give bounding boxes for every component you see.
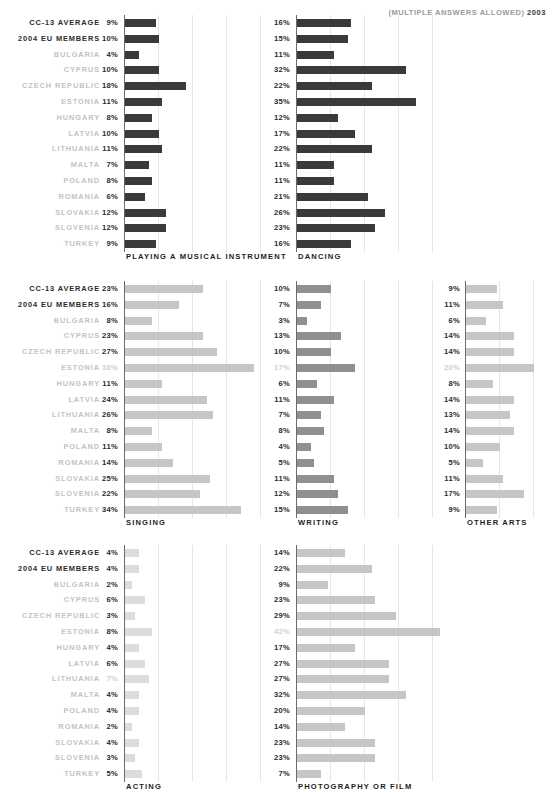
- chart-bar: [297, 98, 416, 106]
- chart-bar: [125, 459, 173, 467]
- chart-row: SLOVAKIA25%11%11%: [0, 471, 552, 487]
- chart-row: 2004 EU MEMBERS4%22%: [0, 561, 552, 577]
- value-label: 10%: [232, 344, 290, 360]
- value-label: 10%: [404, 439, 460, 455]
- chart-bar: [297, 193, 368, 201]
- chart-row: CZECH REPUBLIC27%10%14%: [0, 344, 552, 360]
- value-label: 8%: [404, 376, 460, 392]
- value-label: 8%: [60, 313, 118, 329]
- chart-row: BULGARIA8%3%6%: [0, 313, 552, 329]
- panel-title: SINGING: [126, 518, 166, 527]
- value-label: 12%: [232, 486, 290, 502]
- value-label: 4%: [60, 687, 118, 703]
- value-label: 10%: [60, 31, 118, 47]
- chart-row: ESTONIA38%17%20%: [0, 360, 552, 376]
- chart-bar: [125, 193, 145, 201]
- chart-bar: [297, 691, 406, 699]
- chart-bar: [125, 443, 162, 451]
- chart-bar: [297, 612, 396, 620]
- chart-bar: [125, 660, 145, 668]
- chart-row: CYPRUS6%23%: [0, 592, 552, 608]
- chart-bar: [466, 475, 503, 483]
- value-label: 26%: [232, 205, 290, 221]
- value-label: 11%: [232, 157, 290, 173]
- value-label: 9%: [404, 281, 460, 297]
- value-label: 32%: [232, 687, 290, 703]
- chart-bar: [125, 490, 200, 498]
- chart-bar: [125, 317, 152, 325]
- chart-bar: [125, 396, 207, 404]
- value-label: 14%: [404, 392, 460, 408]
- chart-row: LITHUANIA26%7%13%: [0, 407, 552, 423]
- value-label: 18%: [60, 78, 118, 94]
- chart-bar: [466, 506, 497, 514]
- chart-bar: [297, 285, 331, 293]
- chart-row: 2004 EU MEMBERS16%7%11%: [0, 297, 552, 313]
- chart-bar: [297, 19, 351, 27]
- chart-bar: [297, 301, 321, 309]
- value-label: 23%: [60, 328, 118, 344]
- chart-row: POLAND11%4%10%: [0, 439, 552, 455]
- chart-bar: [297, 770, 321, 778]
- chart-row: ESTONIA8%42%: [0, 624, 552, 640]
- value-label: 5%: [404, 455, 460, 471]
- value-label: 8%: [60, 624, 118, 640]
- chart-row: CZECH REPUBLIC3%29%: [0, 608, 552, 624]
- value-label: 8%: [60, 110, 118, 126]
- value-label: 20%: [404, 360, 460, 376]
- value-label: 32%: [232, 62, 290, 78]
- chart-bar: [466, 317, 486, 325]
- chart-row: MALTA7%11%: [0, 157, 552, 173]
- chart-bar: [466, 427, 514, 435]
- chart-row: ROMANIA6%21%: [0, 189, 552, 205]
- value-label: 12%: [232, 110, 290, 126]
- value-label: 27%: [60, 344, 118, 360]
- chart-bar: [125, 628, 152, 636]
- value-label: 7%: [60, 671, 118, 687]
- value-label: 27%: [232, 671, 290, 687]
- chart-bar: [297, 723, 345, 731]
- value-label: 3%: [232, 313, 290, 329]
- value-label: 29%: [232, 608, 290, 624]
- value-label: 4%: [60, 561, 118, 577]
- value-label: 17%: [404, 486, 460, 502]
- value-label: 14%: [232, 545, 290, 561]
- chart-bar: [297, 427, 324, 435]
- value-label: 14%: [404, 344, 460, 360]
- chart-bar: [125, 549, 139, 557]
- chart-row: LITHUANIA7%27%: [0, 671, 552, 687]
- value-label: 6%: [404, 313, 460, 329]
- value-label: 34%: [60, 502, 118, 518]
- value-label: 16%: [232, 236, 290, 252]
- chart-bar: [466, 348, 514, 356]
- chart-bar: [297, 411, 321, 419]
- chart-row: BULGARIA2%9%: [0, 577, 552, 593]
- chart-block: CC-13 AVERAGE9%16%2004 EU MEMBERS10%15%B…: [0, 15, 552, 252]
- chart-row: ROMANIA14%5%5%: [0, 455, 552, 471]
- chart-bar: [125, 675, 149, 683]
- chart-bar: [466, 396, 514, 404]
- chart-bar: [297, 82, 372, 90]
- value-label: 24%: [60, 392, 118, 408]
- value-label: 11%: [232, 173, 290, 189]
- chart-bar: [125, 240, 156, 248]
- value-label: 15%: [232, 502, 290, 518]
- chart-row: 2004 EU MEMBERS10%15%: [0, 31, 552, 47]
- chart-row: POLAND4%20%: [0, 703, 552, 719]
- value-label: 26%: [60, 407, 118, 423]
- chart-bar: [297, 596, 375, 604]
- chart-bar: [125, 770, 142, 778]
- chart-bar: [125, 596, 145, 604]
- chart-row: MALTA8%8%14%: [0, 423, 552, 439]
- chart-bar: [466, 285, 497, 293]
- chart-bar: [297, 459, 314, 467]
- chart-bar: [297, 380, 317, 388]
- chart-bar: [125, 66, 159, 74]
- chart-bar: [466, 364, 534, 372]
- chart-bar: [125, 19, 156, 27]
- chart-row: BULGARIA4%11%: [0, 47, 552, 63]
- chart-row: CZECH REPUBLIC18%22%: [0, 78, 552, 94]
- value-label: 11%: [232, 392, 290, 408]
- chart-bar: [297, 707, 365, 715]
- chart-bar: [125, 51, 139, 59]
